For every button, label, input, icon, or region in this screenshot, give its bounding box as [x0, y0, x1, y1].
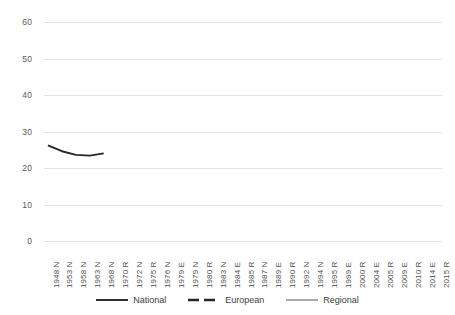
- x-tick-label: 2015 R: [442, 244, 451, 288]
- legend-item-regional[interactable]: Regional: [286, 295, 359, 305]
- x-tick-label: 1983 N: [219, 244, 228, 288]
- x-tick-label: 1984 E: [233, 244, 242, 288]
- y-tick-label: 40: [22, 90, 32, 100]
- x-tick-label: 2010 R: [414, 244, 423, 288]
- legend-swatch-national: [96, 295, 128, 305]
- y-tick-label: 30: [22, 127, 32, 137]
- y-tick-label: 0: [27, 236, 32, 246]
- x-tick-label: 1979 N: [191, 244, 200, 288]
- gridline: [44, 241, 442, 242]
- x-tick-label: 1979 E: [177, 244, 186, 288]
- x-tick-label: 1976 N: [163, 244, 172, 288]
- x-tick-label: 1953 N: [65, 244, 74, 288]
- x-tick-label: 1975 R: [149, 244, 158, 288]
- plot-area: [44, 22, 442, 241]
- x-tick-label: 1968 N: [107, 244, 116, 288]
- x-tick-label: 1995 R: [330, 244, 339, 288]
- x-tick-label: 1994 N: [316, 244, 325, 288]
- legend-item-european[interactable]: European: [188, 295, 264, 305]
- y-axis: 0102030405060: [0, 22, 38, 241]
- legend-label: European: [225, 295, 264, 305]
- x-tick-label: 1980 R: [205, 244, 214, 288]
- legend-swatch-european: [188, 295, 220, 305]
- legend-item-national[interactable]: National: [96, 295, 166, 305]
- y-tick-label: 20: [22, 163, 32, 173]
- y-tick-label: 50: [22, 54, 32, 64]
- line-chart: 0102030405060 1948 N1953 N1958 N1963 N19…: [0, 0, 455, 315]
- x-tick-label: 1989 E: [274, 244, 283, 288]
- x-tick-label: 2005 R: [386, 244, 395, 288]
- x-tick-label: 1999 E: [344, 244, 353, 288]
- x-tick-label: 1972 N: [135, 244, 144, 288]
- x-tick-label: 2009 E: [400, 244, 409, 288]
- series-line-national: [48, 145, 104, 155]
- legend-label: National: [133, 295, 166, 305]
- x-tick-label: 2014 E: [428, 244, 437, 288]
- legend-label: Regional: [323, 295, 359, 305]
- x-tick-label: 2000 R: [358, 244, 367, 288]
- y-tick-label: 60: [22, 17, 32, 27]
- series-layer: [44, 22, 442, 241]
- legend-swatch-regional: [286, 295, 318, 305]
- x-tick-label: 1992 N: [302, 244, 311, 288]
- chart-legend: NationalEuropeanRegional: [0, 289, 455, 311]
- x-tick-label: 1985 R: [247, 244, 256, 288]
- x-tick-label: 1970 R: [121, 244, 130, 288]
- x-tick-label: 1958 N: [79, 244, 88, 288]
- y-tick-label: 10: [22, 200, 32, 210]
- x-axis: 1948 N1953 N1958 N1963 N1968 N1970 R1972…: [44, 244, 442, 290]
- x-tick-label: 1987 N: [260, 244, 269, 288]
- x-tick-label: 2004 E: [372, 244, 381, 288]
- x-tick-label: 1990 R: [288, 244, 297, 288]
- x-tick-label: 1948 N: [52, 244, 61, 288]
- x-tick-label: 1963 N: [93, 244, 102, 288]
